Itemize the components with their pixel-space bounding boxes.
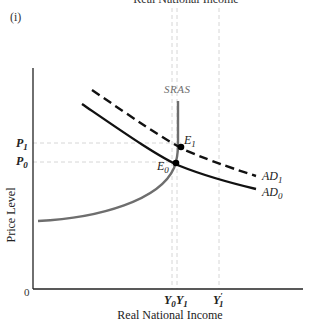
sras-label: SRAS (164, 83, 190, 95)
p0-tick-label: P0 (16, 154, 28, 170)
ad-sras-diagram: Real National Income (i) SRAS E1 E0 AD1 … (0, 0, 309, 322)
top-caption: Real National Income (133, 0, 238, 6)
origin-label: 0 (24, 286, 30, 298)
p1-tick-label: P1 (16, 136, 28, 152)
x-axis-label: Real National Income (117, 308, 222, 322)
y-axis-label: Price Level (4, 187, 18, 243)
y0-tick-label: Y0 (164, 293, 176, 309)
e1-label: E1 (183, 133, 196, 149)
ad0-label: AD0 (261, 185, 283, 201)
y1-tick-label: Y1 (176, 293, 188, 309)
y1-prime-tick-label: Y′1 (213, 291, 223, 309)
ad1-label: AD1 (261, 169, 283, 185)
e0-point (173, 160, 180, 167)
panel-label: (i) (10, 10, 21, 24)
e0-label: E0 (156, 159, 169, 175)
